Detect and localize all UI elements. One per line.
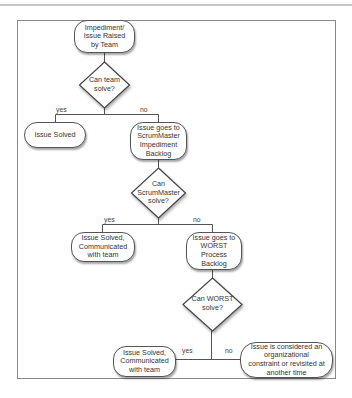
- issue-solved-worst-node: Issue Solved, Communicated with team: [113, 346, 176, 377]
- start-node: Impediment/ Issue Raised by Team: [74, 20, 135, 53]
- decision-team-label: Can team solve?: [82, 74, 127, 96]
- decision-sm-label: Can ScrumMaster solve?: [131, 180, 186, 206]
- edge-label-no-1: no: [140, 106, 148, 114]
- issue-solved-sm-node: Issue Solved, Communicated with team: [71, 232, 135, 262]
- edge-label-no-3: no: [225, 347, 233, 355]
- constraint-node: Issue is considered an organizational co…: [240, 342, 333, 378]
- edge-label-no-2: no: [193, 216, 201, 224]
- scrummaster-backlog-node: Issue goes to ScrumMaster Impediment Bac…: [130, 122, 187, 160]
- worst-backlog-node: Issue goes to WORST Process Backlog: [186, 232, 242, 270]
- edge-label-yes-1: yes: [56, 106, 67, 114]
- edge-label-yes-3: yes: [182, 347, 193, 355]
- edge-label-yes-2: yes: [104, 216, 115, 224]
- issue-solved-node: Issue Solved: [24, 122, 86, 148]
- decision-worst-label: Can WORST solve?: [185, 294, 240, 314]
